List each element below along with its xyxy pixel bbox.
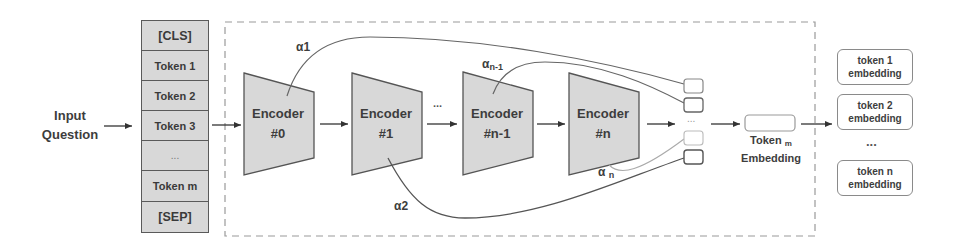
encoder-n-1-name: Encoder — [462, 104, 532, 124]
pool-ellipsis: ... — [687, 113, 695, 124]
output-1-line1: token 1 — [857, 54, 892, 67]
input-question-label: Input Question — [30, 106, 110, 144]
token-m-subscript: m — [785, 139, 792, 148]
output-n-line1: token n — [857, 165, 893, 178]
token-cell-3: Token 3 — [142, 111, 208, 141]
alpha2-label: α2 — [394, 199, 408, 213]
output-2-line2: embedding — [848, 112, 901, 125]
encoder-1-name: Encoder — [351, 104, 421, 124]
output-ellipsis: ... — [866, 134, 877, 149]
alpha-n-1-label: αn-1 — [482, 57, 503, 72]
alpha-n-base: α — [598, 165, 605, 179]
pool-box-3 — [684, 131, 703, 145]
output-token-2-embedding: token 2 embedding — [837, 94, 913, 130]
token-cell-m: Token m — [142, 171, 208, 201]
output-token-1-embedding: token 1 embedding — [837, 49, 913, 85]
token-cell-1: Token 1 — [142, 51, 208, 81]
pool-box-1 — [684, 79, 703, 93]
token-cell-cls: [CLS] — [142, 21, 208, 51]
pool-box-4 — [684, 150, 703, 164]
encoder-n-1-label: Encoder #n-1 — [462, 104, 532, 144]
token-cell-2: Token 2 — [142, 81, 208, 111]
alpha-n-1-subscript: n-1 — [489, 62, 503, 72]
output-token-n-embedding: token n embedding — [837, 160, 913, 196]
pool-box-2 — [684, 98, 703, 112]
encoder-n-index: #n — [568, 124, 638, 144]
token-m-base: Token — [750, 134, 782, 146]
alpha1-label: α1 — [296, 40, 310, 54]
token-m-line2: Embedding — [738, 151, 804, 165]
output-n-line2: embedding — [848, 178, 901, 191]
encoder-1-label: Encoder #1 — [351, 104, 421, 144]
token-m-embedding-box — [745, 115, 795, 131]
alpha-n-subscript: n — [609, 170, 615, 180]
output-1-line2: embedding — [848, 67, 901, 80]
encoder-0-index: #0 — [243, 124, 313, 144]
encoder-n-label: Encoder #n — [568, 104, 638, 144]
token-m-embedding-label: Token m Embedding — [738, 133, 804, 165]
encoder-0-label: Encoder #0 — [243, 104, 313, 144]
token-cell-sep: [SEP] — [142, 202, 208, 232]
encoder-n-1-index: #n-1 — [462, 124, 532, 144]
encoder-n-name: Encoder — [568, 104, 638, 124]
input-label-line1: Input — [30, 106, 110, 125]
alpha-n-label: α n — [598, 165, 614, 180]
token-cell-ellipsis: ... — [142, 141, 208, 171]
encoder-ellipsis: ... — [433, 97, 442, 109]
token-sequence: [CLS] Token 1 Token 2 Token 3 ... Token … — [141, 20, 209, 233]
encoder-1-index: #1 — [351, 124, 421, 144]
token-m-line1: Token m — [738, 133, 804, 151]
output-2-line1: token 2 — [857, 99, 892, 112]
input-label-line2: Question — [30, 125, 110, 144]
encoder-0-name: Encoder — [243, 104, 313, 124]
